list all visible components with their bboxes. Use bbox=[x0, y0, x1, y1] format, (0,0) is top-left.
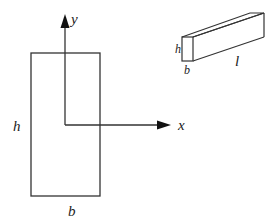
beam-length-label: l bbox=[235, 53, 239, 69]
x-axis-arrow-icon bbox=[157, 121, 171, 130]
section-width-label: b bbox=[68, 203, 76, 219]
y-axis: y bbox=[61, 11, 79, 125]
beam-width-label: b bbox=[184, 63, 190, 77]
section-height-label: h bbox=[13, 118, 21, 134]
y-axis-arrow-icon bbox=[61, 14, 70, 28]
x-axis-label: x bbox=[177, 117, 185, 133]
beam-section-diagram: y x h b h b l bbox=[0, 0, 276, 224]
y-axis-label: y bbox=[69, 11, 78, 27]
beam-height-label: h bbox=[175, 42, 181, 56]
x-axis: x bbox=[65, 117, 185, 133]
beam-3d-sketch bbox=[182, 13, 264, 61]
